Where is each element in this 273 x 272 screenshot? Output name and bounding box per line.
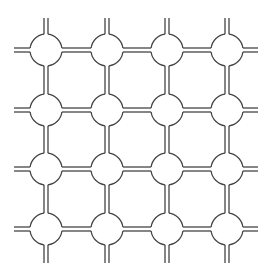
node-circle: [91, 213, 123, 245]
grid-diagram: [0, 0, 273, 272]
node-circle: [30, 94, 62, 126]
node-circle: [211, 94, 243, 126]
node-circle: [30, 34, 62, 66]
grid-network-svg: [0, 0, 273, 272]
node-circle: [91, 34, 123, 66]
node-circle: [211, 153, 243, 185]
node-circle: [151, 34, 183, 66]
node-circle: [151, 153, 183, 185]
node-circle: [91, 94, 123, 126]
node-circle: [211, 34, 243, 66]
node-circle: [30, 153, 62, 185]
node-circle: [151, 94, 183, 126]
node-circle: [151, 213, 183, 245]
node-circle: [91, 153, 123, 185]
node-circle: [211, 213, 243, 245]
node-circle: [30, 213, 62, 245]
